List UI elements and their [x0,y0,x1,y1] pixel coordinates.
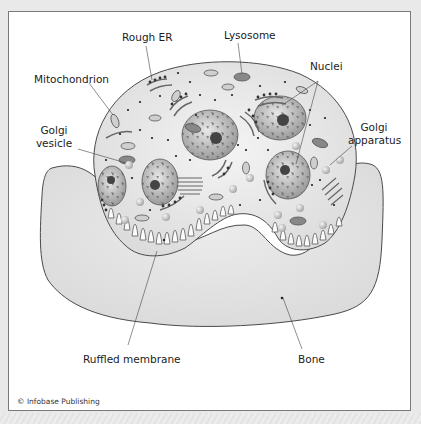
copyright-credit: © Infobase Publishing [17,397,100,406]
label-lysosome: Lysosome [224,29,276,42]
osteoclast-diagram [0,0,421,424]
label-golgi-vesicle-line1: Golgi [34,124,74,137]
label-ruffled-membrane: Ruffled membrane [83,353,181,366]
label-nuclei: Nuclei [310,60,343,73]
label-rough-er: Rough ER [122,31,173,44]
label-bone: Bone [298,353,325,366]
label-golgi-apparatus: Golgi apparatus [348,121,400,147]
label-golgi-vesicle-line2: vesicle [34,137,74,150]
label-golgi-vesicle: Golgi vesicle [34,124,74,150]
label-golgi-apparatus-line2: apparatus [348,134,400,147]
bone-marker [281,297,284,300]
label-golgi-apparatus-line1: Golgi [348,121,400,134]
label-mitochondrion: Mitochondrion [34,73,109,86]
